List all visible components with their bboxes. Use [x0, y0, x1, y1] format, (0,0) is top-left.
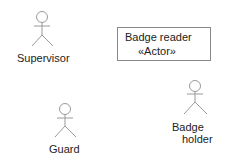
- classifier-name: Badge reader: [125, 31, 192, 44]
- actor-head-icon: [190, 81, 201, 92]
- actor-head-icon: [60, 104, 71, 115]
- actor-left-leg-icon: [55, 126, 65, 137]
- actor-label-badge-holder-line2: holder: [182, 133, 213, 146]
- actor-left-leg-icon: [184, 102, 195, 114]
- actor-head-icon: [37, 12, 48, 23]
- actor-figure-supervisor[interactable]: [32, 12, 53, 47]
- actor-right-leg-icon: [42, 35, 53, 46]
- classifier-box-badge-reader[interactable]: Badge reader «Actor»: [117, 27, 211, 61]
- actor-label-supervisor: Supervisor: [17, 52, 70, 65]
- actor-figure-badge-holder[interactable]: [184, 81, 207, 115]
- classifier-stereotype: «Actor»: [138, 45, 176, 58]
- actor-right-leg-icon: [65, 126, 76, 137]
- actor-left-leg-icon: [32, 35, 42, 46]
- actor-right-leg-icon: [195, 102, 207, 114]
- actor-figure-guard[interactable]: [55, 104, 76, 138]
- actor-label-guard: Guard: [49, 143, 80, 156]
